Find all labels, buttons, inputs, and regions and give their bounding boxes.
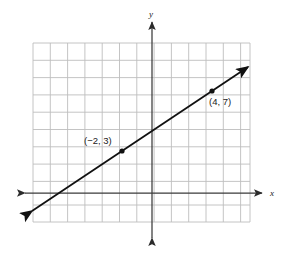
x-axis-label: x: [269, 188, 274, 198]
figure-background: [0, 0, 284, 255]
data-point-4-7: [209, 88, 214, 93]
coordinate-plane-figure: (−2, 3) (4, 7) y x: [0, 0, 284, 255]
point-label-two: (4, 7): [209, 96, 231, 107]
data-point-negative2-3: [119, 148, 124, 153]
y-axis-label: y: [148, 9, 153, 19]
graph-canvas: (−2, 3) (4, 7) y x: [0, 0, 284, 255]
point-label-one: (−2, 3): [84, 135, 112, 146]
